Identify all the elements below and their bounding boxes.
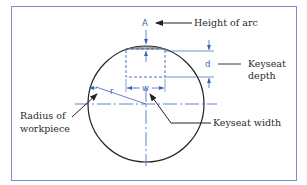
label-keyseat-width: Keyseat width <box>213 117 281 128</box>
symbol-d: d <box>205 60 210 69</box>
label-height-of-arc: Height of arc <box>194 17 258 28</box>
radius-line <box>96 87 146 104</box>
radius-leader <box>72 94 97 117</box>
label-keyseat-depth-2: depth <box>248 70 276 81</box>
label-radius-1: Radius of <box>20 110 65 121</box>
label-keyseat-depth-1: Keyseat <box>248 58 286 69</box>
keyseat-diagram <box>0 0 307 185</box>
symbol-r: r <box>110 87 114 96</box>
label-radius-2: workpiece <box>20 123 70 134</box>
symbol-w: w <box>142 84 149 93</box>
keyseat-outline <box>126 49 165 77</box>
symbol-a: A <box>142 19 148 28</box>
